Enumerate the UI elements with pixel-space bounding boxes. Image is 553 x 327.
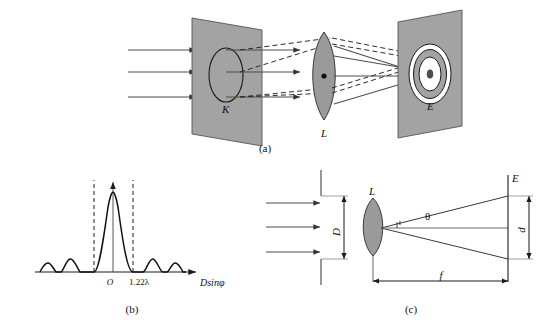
screen-e-label-a: E — [426, 100, 434, 112]
panel-c-caption: (c) — [405, 303, 418, 316]
panel-c: D L θ E d f (c) — [266, 170, 533, 316]
lens-center-dot-a — [321, 73, 326, 78]
lens-l-label-c: L — [368, 185, 375, 197]
panel-a-incoming-rays — [128, 50, 196, 97]
panel-c-aperture-d-label: D — [330, 228, 342, 237]
panel-b: O 1.22λ Dsinφ (b) — [35, 180, 225, 316]
optics-figure: K L — [0, 0, 553, 327]
observation-screen-e — [398, 10, 462, 138]
panel-a-caption: (a) — [259, 142, 272, 155]
panel-c-incoming-rays — [266, 203, 320, 252]
panel-b-first-minimum-label: 1.22λ — [129, 277, 150, 287]
figure-canvas: K L — [0, 0, 553, 327]
aperture-k-label: K — [221, 103, 230, 115]
aperture-screen-k — [192, 18, 262, 146]
panel-b-origin-label: O — [107, 277, 114, 287]
airy-disk-center — [427, 69, 433, 78]
panel-b-caption: (b) — [126, 303, 139, 316]
panel-c-aperture-dimension — [321, 196, 348, 259]
panel-c-beam — [381, 196, 508, 259]
panel-a: K L — [128, 10, 462, 155]
panel-b-x-axis-label: Dsinφ — [199, 277, 225, 288]
panel-c-focal-f-label: f — [439, 269, 444, 281]
lens-l-panel-c — [363, 198, 383, 282]
lens-l-label-a: L — [320, 127, 327, 139]
screen-e-label-c: E — [511, 172, 519, 184]
panel-c-theta-label: θ — [425, 210, 430, 222]
lens-l-panel-a — [313, 32, 336, 120]
panel-c-spot-d-label: d — [515, 227, 527, 233]
